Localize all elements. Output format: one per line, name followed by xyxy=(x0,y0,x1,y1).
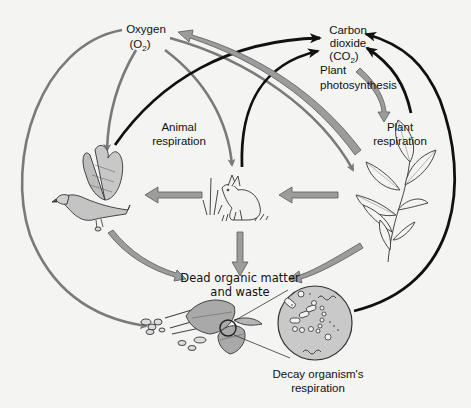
svg-text:photosynthesis: photosynthesis xyxy=(320,79,397,91)
svg-text:Plant: Plant xyxy=(320,64,347,76)
microbes-magnified-illustration xyxy=(278,286,352,360)
label-dead-organic-matter: Dead organic matter and waste xyxy=(180,271,300,299)
arrow-oxygen-to-plant xyxy=(170,38,353,170)
svg-text:respiration: respiration xyxy=(373,135,427,147)
svg-text:Oxygen: Oxygen xyxy=(126,23,166,35)
svg-text:Animal: Animal xyxy=(161,121,196,133)
svg-text:(O2): (O2) xyxy=(129,38,150,53)
carbon-oxygen-cycle-diagram: Oxygen (O2) Carbon dioxide (CO2) Plant p… xyxy=(0,0,471,408)
arrow-microbes-to-co2 xyxy=(354,34,455,311)
svg-text:and waste: and waste xyxy=(210,285,269,299)
organic-flows xyxy=(108,30,390,283)
arrow-rabbit-to-co2 xyxy=(242,51,318,167)
label-oxygen: Oxygen (O2) xyxy=(126,23,166,53)
svg-text:respiration: respiration xyxy=(152,135,206,147)
leaf-litter-illustration xyxy=(141,300,262,354)
arrow-hawk-to-dead-matter xyxy=(108,230,186,281)
svg-text:Carbon: Carbon xyxy=(329,24,367,36)
label-animal-respiration: Animal respiration xyxy=(152,121,206,147)
arrow-co2-to-plant xyxy=(356,68,390,122)
hawk-illustration xyxy=(52,145,130,231)
svg-text:Decay organism's: Decay organism's xyxy=(272,368,363,380)
svg-text:Dead organic matter: Dead organic matter xyxy=(180,271,300,285)
label-carbon-dioxide: Carbon dioxide (CO2) xyxy=(329,24,367,65)
arrow-plant-to-rabbit xyxy=(279,187,338,203)
svg-text:Plant: Plant xyxy=(387,121,414,133)
arrow-rabbit-to-hawk xyxy=(145,187,202,203)
arrow-rabbit-to-dead-matter xyxy=(232,232,248,276)
label-plant-photosynthesis: Plant photosynthesis xyxy=(320,64,397,91)
label-decay-respiration: Decay organism's respiration xyxy=(272,368,363,394)
svg-text:dioxide: dioxide xyxy=(330,37,366,49)
svg-text:(CO2): (CO2) xyxy=(329,50,359,65)
svg-text:respiration: respiration xyxy=(291,382,345,394)
rabbit-illustration xyxy=(203,175,268,221)
arrow-plant-to-dead-matter xyxy=(289,243,363,283)
arrow-oxygen-to-leaf-litter xyxy=(22,30,146,326)
arrow-oxygen-to-rabbit xyxy=(165,50,232,165)
